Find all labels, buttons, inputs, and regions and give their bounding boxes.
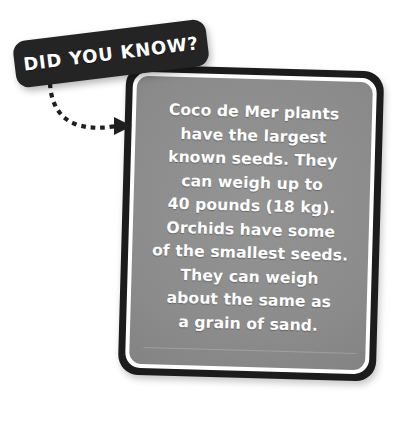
dotted-trail [50, 76, 116, 128]
fact-callout-graphic: Coco de Mer plants have the largest know… [0, 0, 405, 421]
fact-card: Coco de Mer plants have the largest know… [118, 64, 385, 381]
fact-card-body-text: Coco de Mer plants have the largest know… [130, 98, 372, 339]
did-you-know-banner-label: DID YOU KNOW? [22, 32, 200, 74]
connector-arrow [40, 72, 150, 152]
fact-card-face: Coco de Mer plants have the largest know… [129, 76, 373, 370]
fact-card-divider [144, 347, 356, 354]
fact-card-inner-ring: Coco de Mer plants have the largest know… [125, 72, 377, 375]
arrow-head-icon [114, 117, 132, 135]
